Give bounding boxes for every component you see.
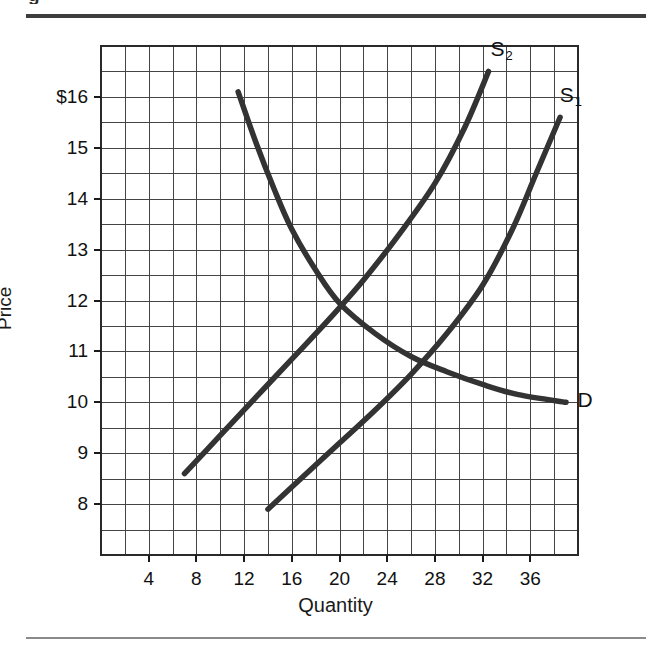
y-tick-label-13: 13 [0, 239, 88, 261]
label-s2: S2 [491, 37, 512, 61]
figure-bottom-rule [26, 637, 646, 639]
supply-demand-chart: $1615141312111098 4812162024283236 S2S1D… [0, 0, 671, 648]
y-tick-label-11: 11 [0, 340, 88, 362]
chart-axis-ticks [94, 97, 530, 562]
y-axis-title: Price [0, 287, 16, 330]
x-tick-label-36: 36 [520, 568, 541, 590]
chart-curves [184, 71, 566, 509]
curve-s1 [268, 117, 560, 509]
label-d: D [578, 388, 593, 412]
x-tick-label-28: 28 [424, 568, 445, 590]
label-s1: S1 [560, 83, 581, 107]
x-tick-label-16: 16 [281, 568, 302, 590]
x-tick-label-8: 8 [191, 568, 202, 590]
label-s2-subscript: 2 [506, 48, 513, 63]
y-tick-label-9: 9 [0, 442, 88, 464]
label-s1-subscript: 1 [575, 94, 582, 109]
y-tick-label-16: $16 [0, 86, 88, 108]
curve-s2 [184, 71, 488, 473]
y-tick-label-10: 10 [0, 391, 88, 413]
x-tick-label-20: 20 [329, 568, 350, 590]
x-tick-label-4: 4 [143, 568, 154, 590]
x-tick-label-12: 12 [234, 568, 255, 590]
x-tick-label-32: 32 [472, 568, 493, 590]
x-tick-label-24: 24 [377, 568, 398, 590]
y-tick-label-14: 14 [0, 188, 88, 210]
y-tick-label-15: 15 [0, 137, 88, 159]
x-axis-title: Quantity [0, 594, 671, 617]
curve-d [238, 92, 566, 402]
y-tick-label-8: 8 [0, 493, 88, 515]
